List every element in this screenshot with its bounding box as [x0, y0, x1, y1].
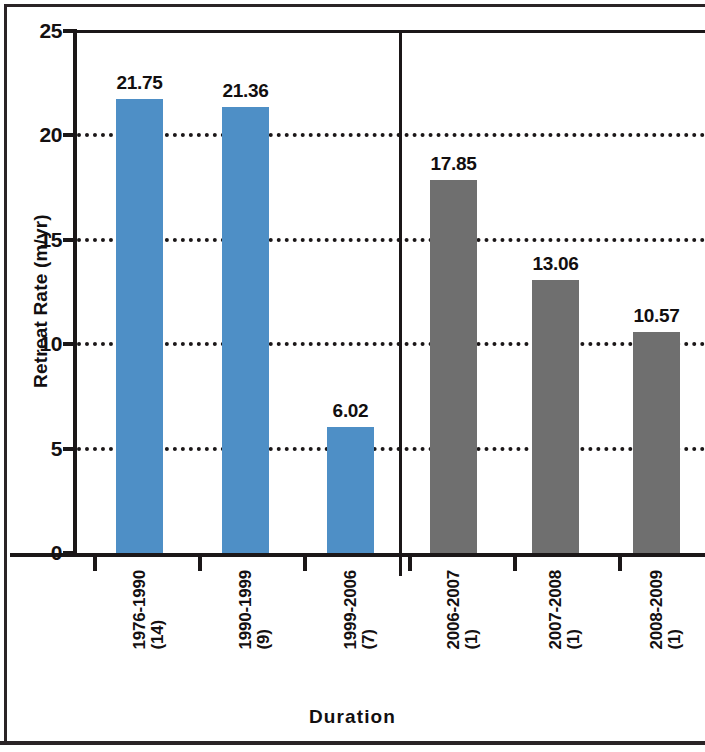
- bar-value-label: 21.36: [201, 81, 291, 100]
- x-axis-category-label: 2007-2008(1): [547, 570, 583, 650]
- bar-value-label: 17.85: [409, 154, 499, 173]
- bar[interactable]: [222, 107, 269, 553]
- category-period: 1990-1999: [236, 570, 255, 650]
- gridline: [77, 238, 705, 242]
- y-axis-tick: [63, 551, 77, 555]
- bar-value-label: 6.02: [306, 401, 396, 420]
- category-count: (9): [254, 570, 272, 650]
- category-count: (7): [359, 570, 377, 650]
- category-period: 1999-2006: [341, 570, 360, 650]
- category-count: (1): [462, 570, 480, 650]
- bar[interactable]: [116, 99, 163, 553]
- bar[interactable]: [430, 180, 477, 553]
- y-axis-tick-label: 20: [18, 124, 62, 145]
- category-period: 2008-2009: [647, 570, 666, 650]
- y-axis-line: [73, 30, 77, 556]
- y-axis-tick-label: 0: [18, 542, 62, 563]
- bar[interactable]: [633, 332, 680, 553]
- plot-top-border: [73, 30, 705, 33]
- category-period: 2006-2007: [444, 570, 463, 650]
- y-axis-tick: [63, 29, 77, 33]
- y-axis-tick: [63, 133, 77, 137]
- x-axis-category-label: 1976-1990(14): [131, 570, 167, 650]
- bar-value-label: 13.06: [511, 254, 601, 273]
- gridline: [77, 447, 705, 451]
- x-axis-tick: [303, 556, 307, 571]
- y-axis-title: Retreat Rate (m/yr): [30, 156, 52, 446]
- bar-value-label: 10.57: [612, 306, 702, 325]
- bar[interactable]: [532, 280, 579, 553]
- x-axis-category-label: 2008-2009(1): [648, 570, 684, 650]
- x-axis-tick: [93, 556, 97, 571]
- category-count: (14): [148, 570, 166, 650]
- bar-chart-plot-area: 0510152025 21.7521.366.0217.8513.0610.57…: [0, 0, 705, 752]
- category-period: 1976-1990: [130, 570, 149, 650]
- group-separator-line: [399, 33, 402, 576]
- gridline: [77, 342, 705, 346]
- y-axis-tick: [63, 342, 77, 346]
- x-axis-tick: [618, 556, 622, 571]
- x-axis-category-label: 2006-2007(1): [445, 570, 481, 650]
- bar[interactable]: [327, 427, 374, 553]
- category-count: (1): [564, 570, 582, 650]
- y-axis-tick-label: 25: [18, 20, 62, 41]
- x-axis-category-label: 1990-1999(9): [237, 570, 273, 650]
- bar-value-label: 21.75: [95, 73, 185, 92]
- x-axis-tick: [198, 556, 202, 571]
- category-count: (1): [665, 570, 683, 650]
- x-axis-tick: [408, 556, 412, 571]
- x-axis-tick: [513, 556, 517, 571]
- x-axis-title: Duration: [0, 706, 705, 728]
- x-axis-baseline: [10, 553, 705, 557]
- y-axis-tick: [63, 447, 77, 451]
- category-period: 2007-2008: [546, 570, 565, 650]
- gridline: [77, 133, 705, 137]
- x-axis-category-label: 1999-2006(7): [342, 570, 378, 650]
- y-axis-tick: [63, 238, 77, 242]
